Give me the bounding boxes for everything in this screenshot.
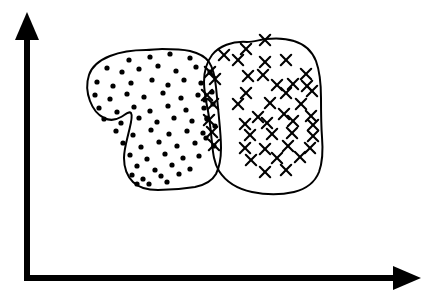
data-point-dot [178,95,183,100]
data-point-dot [130,132,135,137]
data-point-dot [107,96,112,101]
data-point-dot [120,140,125,145]
data-point-dot [146,181,151,186]
data-point-dot [94,79,99,84]
horizontal-axis-arrowhead [393,266,421,290]
data-point-dot [148,127,153,132]
scatter-cluster-diagram [0,0,438,300]
data-point-dot [138,144,143,149]
data-point-dot [124,91,129,96]
data-point-dot [136,66,141,71]
data-point-dot [189,118,194,123]
data-point-dot [158,173,163,178]
data-point-dot [147,108,152,113]
data-point-dot [101,116,106,121]
data-point-dot [169,162,174,167]
data-point-dot [155,63,160,68]
data-point-dot [196,153,201,158]
data-point-dot [119,69,124,74]
data-point-dot [198,80,203,85]
data-point-dot [184,128,189,133]
data-point-dot [176,171,181,176]
data-point-dot [92,92,97,97]
data-point-dot [141,94,146,99]
data-point-dot [144,156,149,161]
data-point-dot [165,82,170,87]
data-point-dot [193,64,198,69]
diagram-canvas: Two overlapping class clusters in featur… [0,0,438,300]
data-point-dot [152,167,157,172]
data-point-dot [126,57,131,62]
data-point-dot [201,105,206,110]
data-point-dot [180,155,185,160]
data-point-dot [183,107,188,112]
data-point-dot [173,68,178,73]
data-point-dot [96,105,101,110]
vertical-axis-arrowhead [15,12,39,40]
data-point-dot [129,172,134,177]
data-point-dot [195,92,200,97]
data-point-dot [164,179,169,184]
data-point-dot [162,151,167,156]
data-point-dot [147,54,152,59]
data-point-dot [165,103,170,108]
data-point-dot [160,90,165,95]
data-point-dot [156,139,161,144]
data-point-dot [140,176,145,181]
data-point-dot [187,166,192,171]
data-point-dot [110,83,115,88]
data-point-dot [127,152,132,157]
data-point-dot [128,80,133,85]
data-point-dot [154,119,159,124]
data-point-dot [200,130,205,135]
data-point-dot [114,109,119,114]
data-point-dot [187,55,192,60]
data-point-dot [118,120,123,125]
data-point-dot [149,77,154,82]
data-point-dot [136,115,141,120]
data-point-dot [181,77,186,82]
data-point-dot [104,65,109,70]
data-point-dot [167,51,172,56]
data-point-dot [134,163,139,168]
data-point-dot [192,140,197,145]
data-point-dot [166,131,171,136]
data-point-dot [113,128,118,133]
data-point-dot [171,115,176,120]
data-point-dot [174,143,179,148]
data-point-dot [134,181,139,186]
data-point-dot [131,104,136,109]
